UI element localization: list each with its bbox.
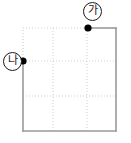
point-ga-label: 가	[83, 2, 102, 21]
square-outline	[23, 28, 116, 131]
geometry-figure: 가 나	[0, 0, 131, 143]
point-ga-dot	[84, 24, 91, 31]
dotted-grid	[23, 28, 116, 131]
figure-canvas	[0, 0, 131, 143]
point-na-label: 나	[3, 52, 22, 71]
